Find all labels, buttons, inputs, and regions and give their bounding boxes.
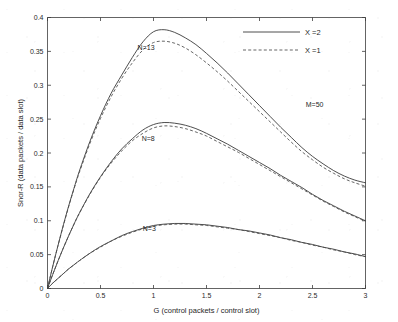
chart-legend: X =2X =1 xyxy=(243,28,321,55)
chart-annotations: N=13N=8N=3M=50 xyxy=(138,44,324,232)
y-tick-label: 0.05 xyxy=(30,251,44,258)
x-tick-label: 0 xyxy=(46,292,50,299)
x-tick-label: 3 xyxy=(364,292,368,299)
curve-n3-dashed xyxy=(48,224,366,288)
curve-n8-solid xyxy=(48,122,366,288)
x-tick-label: 2 xyxy=(258,292,262,299)
chart-figure: 00.511.522.53 00.050.10.150.20.250.30.35… xyxy=(0,0,398,322)
annotation-n8: N=8 xyxy=(142,135,155,142)
y-axis-label: Snor-R (data packets / data slot) xyxy=(16,99,25,207)
curve-n3-solid xyxy=(48,223,366,288)
annotation-n3: N=3 xyxy=(143,225,156,232)
x-tick-label: 1.5 xyxy=(202,292,212,299)
annotation-m50: M=50 xyxy=(306,101,324,108)
x-axis-label: G (control packets / control slot) xyxy=(154,306,260,315)
curve-n8-dashed xyxy=(48,126,366,289)
y-tick-label: 0.4 xyxy=(34,14,44,21)
x-tick-label: 0.5 xyxy=(96,292,106,299)
chart-curves xyxy=(48,30,366,289)
x-tick-label: 2.5 xyxy=(308,292,318,299)
y-tick-label: 0.35 xyxy=(30,48,44,55)
y-tick-label: 0.2 xyxy=(34,150,44,157)
y-tick-label: 0.15 xyxy=(30,183,44,190)
legend-label-1: X =2 xyxy=(305,28,321,37)
y-tick-label: 0.25 xyxy=(30,116,44,123)
plot-frame xyxy=(48,18,366,289)
chart-axes xyxy=(48,18,366,289)
annotation-n13: N=13 xyxy=(138,44,155,51)
curve-n13-dashed xyxy=(48,41,366,288)
y-tick-label: 0 xyxy=(40,285,44,292)
y-tick-label: 0.1 xyxy=(34,217,44,224)
legend-label-2: X =1 xyxy=(305,46,321,55)
x-axis-ticks: 00.511.522.53 xyxy=(46,18,368,300)
x-tick-label: 1 xyxy=(152,292,156,299)
y-tick-label: 0.3 xyxy=(34,82,44,89)
line-chart: 00.511.522.53 00.050.10.150.20.250.30.35… xyxy=(0,0,398,322)
